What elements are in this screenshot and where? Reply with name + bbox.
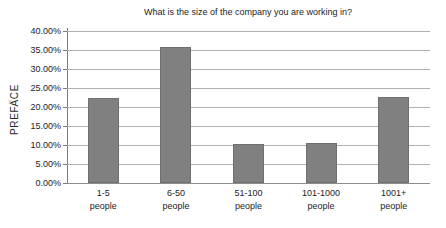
page-number-marker: x bbox=[4, 96, 16, 108]
x-axis-label-line: 1001+ bbox=[357, 187, 430, 200]
y-axis-tick-label: 15.00% bbox=[30, 121, 61, 131]
y-axis-tick-label: 35.00% bbox=[30, 45, 61, 55]
y-axis-tick-label: 30.00% bbox=[30, 64, 61, 74]
y-axis-tick-label: 10.00% bbox=[30, 140, 61, 150]
x-axis-tick-label: 6-50people bbox=[140, 187, 213, 213]
x-axis-tick-label: 51-100people bbox=[212, 187, 285, 213]
y-axis-tick-label: 25.00% bbox=[30, 83, 61, 93]
y-axis-tick-label: 5.00% bbox=[35, 159, 61, 169]
bar-6-50-people[interactable] bbox=[160, 47, 191, 183]
x-axis-label-line: 101-1000 bbox=[285, 187, 358, 200]
bar-101-1000-people[interactable] bbox=[306, 143, 337, 183]
bar-1-5-people[interactable] bbox=[88, 98, 119, 183]
x-axis-label-line: people bbox=[212, 200, 285, 213]
bar-slot bbox=[140, 31, 213, 183]
bar-1001-people[interactable] bbox=[378, 97, 409, 183]
bar-series bbox=[67, 31, 430, 183]
x-axis-label-line: people bbox=[357, 200, 430, 213]
y-axis-tick-label: 40.00% bbox=[30, 26, 61, 36]
x-axis-tick-label: 1-5people bbox=[67, 187, 140, 213]
bar-51-100-people[interactable] bbox=[233, 144, 264, 183]
x-axis-labels: 1-5people6-50people51-100people101-1000p… bbox=[67, 187, 430, 223]
x-axis-label-line: people bbox=[285, 200, 358, 213]
chart-title: What is the size of the company you are … bbox=[64, 7, 432, 17]
bar-slot bbox=[357, 31, 430, 183]
x-axis-label-line: 51-100 bbox=[212, 187, 285, 200]
page-side-label: PREFACE bbox=[9, 74, 20, 146]
x-axis-label-line: people bbox=[140, 200, 213, 213]
x-axis-label-line: 6-50 bbox=[140, 187, 213, 200]
y-axis-tick-label: 0.00% bbox=[35, 178, 61, 188]
bar-slot bbox=[67, 31, 140, 183]
bar-slot bbox=[285, 31, 358, 183]
plot-area: 0.00%5.00%10.00%15.00%20.00%25.00%30.00%… bbox=[67, 31, 430, 183]
x-axis-label-line: 1-5 bbox=[67, 187, 140, 200]
bar-slot bbox=[212, 31, 285, 183]
x-axis-tick-label: 1001+people bbox=[357, 187, 430, 213]
x-axis-label-line: people bbox=[67, 200, 140, 213]
bar-chart: What is the size of the company you are … bbox=[0, 0, 446, 228]
x-axis-tick-label: 101-1000people bbox=[285, 187, 358, 213]
y-axis-tick-label: 20.00% bbox=[30, 102, 61, 112]
